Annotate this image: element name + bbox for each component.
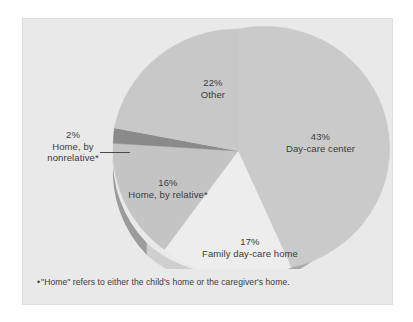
- slice-label-home-relative: 16% Home, by relative*: [98, 177, 238, 200]
- chart-screenshot: 22% Other 43% Day-care center 17% Family…: [0, 0, 413, 322]
- slice-name-daycare-center: Day-care center: [268, 143, 373, 155]
- pie-chart: 22% Other 43% Day-care center 17% Family…: [23, 19, 393, 305]
- slice-label-other: 22% Other: [173, 77, 253, 100]
- footnote-bullet: •: [37, 277, 40, 288]
- slice-name-family-day-care: Family day-care home: [175, 248, 325, 260]
- slice-label-family-day-care: 17% Family day-care home: [175, 236, 325, 259]
- slice-name-home-relative: Home, by relative*: [98, 189, 238, 201]
- figure-panel: 22% Other 43% Day-care center 17% Family…: [22, 18, 393, 305]
- slice-name-home-nonrelative-line1: Home, by: [33, 141, 113, 153]
- chart-footnote: •"Home" refers to either the child's hom…: [37, 277, 382, 288]
- slice-name-home-nonrelative-line2: nonrelative*: [33, 152, 113, 164]
- slice-percent-home-nonrelative: 2%: [33, 129, 113, 141]
- slice-label-daycare-center: 43% Day-care center: [268, 131, 373, 154]
- slice-percent-other: 22%: [173, 77, 253, 89]
- slice-name-other: Other: [173, 89, 253, 101]
- slice-label-home-nonrelative: 2% Home, by nonrelative*: [33, 129, 113, 164]
- slice-percent-family-day-care: 17%: [175, 236, 325, 248]
- slice-percent-home-relative: 16%: [98, 177, 238, 189]
- footnote-text: "Home" refers to either the child's home…: [41, 277, 290, 287]
- slice-percent-daycare-center: 43%: [268, 131, 373, 143]
